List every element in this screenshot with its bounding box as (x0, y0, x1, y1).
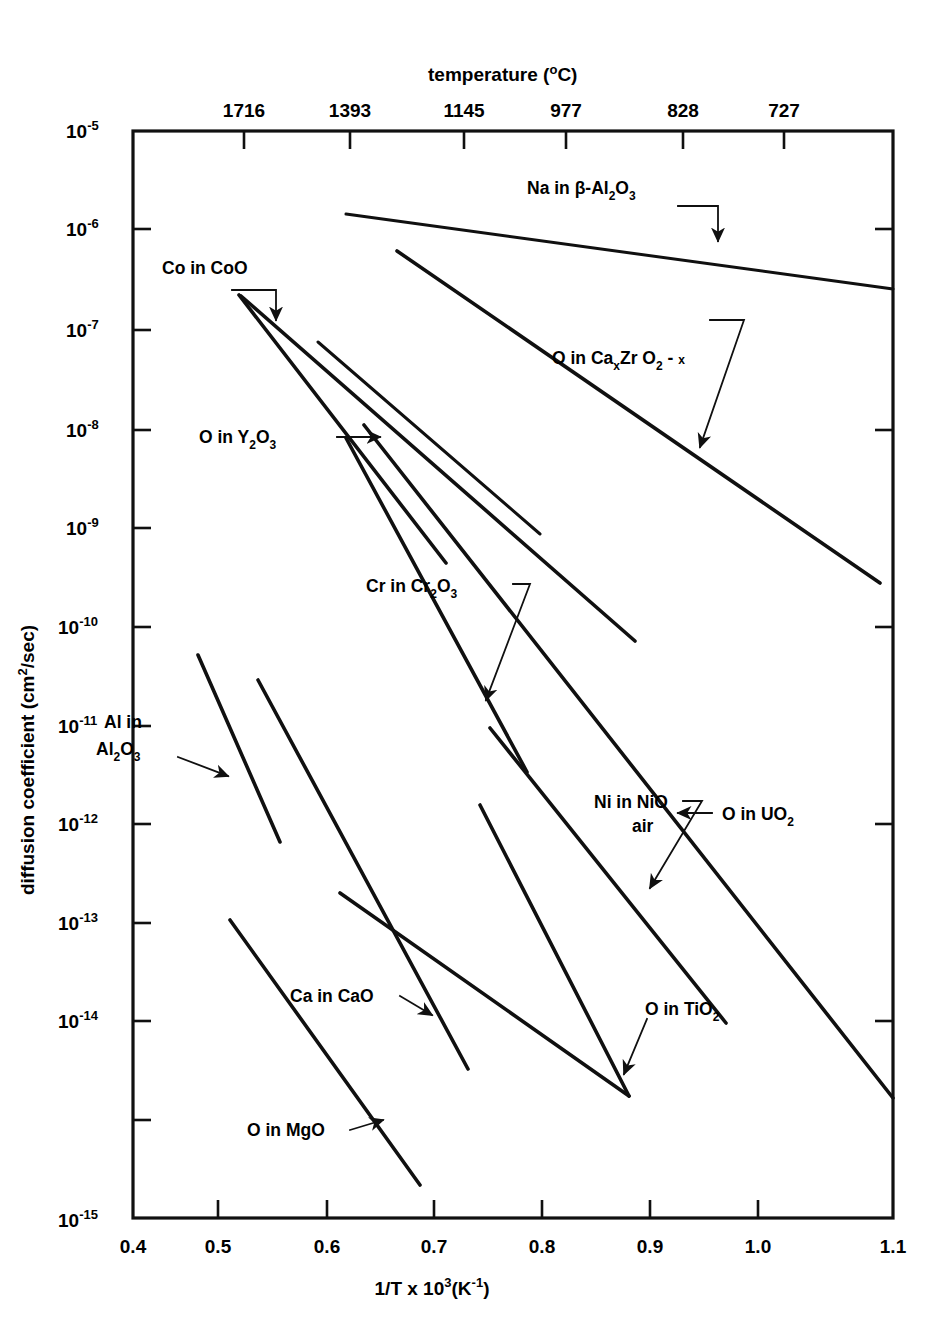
x-tick-label-6: 1.0 (745, 1236, 771, 1257)
svg-text:temperature (oC): temperature (oC) (428, 62, 577, 85)
y-tick-label-7: 10-12 (58, 811, 98, 835)
series-line-o-in-tio2 (480, 805, 629, 1096)
series-label-cr-in-cr2o3: Cr in Cr2O3 (366, 576, 458, 601)
right-axis-ticks (875, 229, 893, 1021)
x-tick-label-4: 0.8 (529, 1236, 555, 1257)
svg-text:diffusion coefficient (cm2/sec: diffusion coefficient (cm2/sec) (15, 625, 38, 895)
x-axis-title-tail: (K (452, 1278, 472, 1299)
series-label-o-in-tio2: O in TiO2 (645, 999, 720, 1024)
bottom-axis-ticks (218, 1200, 758, 1218)
leader-cr-in-cr2o3 (486, 584, 530, 700)
series-label-al-in-al2o3-line1: Al in (104, 712, 142, 732)
top-axis-title: temperature (oC) (428, 62, 577, 85)
series-line-o-in-tio2-upper (340, 893, 629, 1096)
left-axis-ticks (133, 229, 151, 1120)
plot-svg: temperature (oC) 1716 1393 1145 977 828 … (0, 0, 940, 1322)
plot-frame (133, 131, 893, 1218)
series-label-co-in-coo: Co in CoO (162, 258, 248, 278)
y-tick-label-9: 10-14 (58, 1008, 99, 1032)
y-tick-label-2: 10-7 (66, 317, 99, 341)
top-axis-title-tail: C) (557, 64, 577, 85)
top-axis-title-degree: o (549, 62, 557, 77)
y-axis-title-main: diffusion coefficient (cm (17, 675, 38, 895)
top-tick-label-1: 1393 (329, 100, 371, 121)
y-tick-label-5: 10-10 (58, 614, 98, 638)
top-axis-ticks (244, 131, 784, 149)
leader-o-in-caxzro2 (700, 320, 744, 447)
y-axis-title-tail: /sec) (17, 625, 38, 668)
svg-text:1/T x 103(K-1): 1/T x 103(K-1) (375, 1275, 490, 1299)
series-label-ni-in-nio-air-line2: air (632, 816, 654, 836)
series-line-al-in-al2o3 (198, 655, 280, 842)
top-tick-labels: 1716 1393 1145 977 828 727 (223, 100, 800, 121)
series-line-na-in-beta-al2o3 (346, 214, 893, 289)
leader-na-in-beta-al2o3 (678, 206, 718, 241)
y-tick-label-6: 10-11 (58, 713, 97, 737)
top-tick-label-5: 727 (768, 100, 800, 121)
series-line-ni-in-nio-air (490, 728, 726, 1023)
series-label-o-in-mgo: O in MgO (247, 1120, 325, 1140)
series-label-ca-in-cao: Ca in CaO (290, 986, 374, 1006)
y-tick-label-4: 10-9 (66, 515, 99, 539)
x-tick-label-7: 1.1 (880, 1236, 907, 1257)
y-axis-title: diffusion coefficient (cm2/sec) (15, 625, 38, 895)
leader-o-in-tio2 (624, 1019, 647, 1074)
y-tick-label-0: 10-5 (66, 118, 99, 142)
series-label-o-in-uo2: O in UO2 (722, 804, 794, 829)
leader-al-in-al2o3 (178, 757, 228, 776)
x-tick-label-3: 0.7 (421, 1236, 447, 1257)
x-tick-label-0: 0.4 (120, 1236, 147, 1257)
top-tick-label-2: 1145 (443, 100, 485, 121)
y-tick-label-1: 10-6 (66, 216, 99, 240)
x-tick-label-1: 0.5 (205, 1236, 232, 1257)
series-line-o-in-uo2 (364, 425, 893, 1098)
top-tick-label-3: 977 (550, 100, 582, 121)
series-line-co-in-coo (239, 295, 446, 563)
series-line-o-in-mgo (230, 920, 420, 1185)
x-axis-title-end: ) (483, 1278, 489, 1299)
x-tick-labels: 0.4 0.5 0.6 0.7 0.8 0.9 1.0 1.1 (120, 1236, 907, 1257)
series-line-o-in-caxzro2 (397, 251, 880, 583)
top-axis-title-main: temperature ( (428, 64, 550, 85)
series-label-ni-in-nio-air: Ni in NiO (594, 792, 668, 812)
x-tick-label-2: 0.6 (314, 1236, 340, 1257)
x-tick-label-5: 0.9 (637, 1236, 663, 1257)
top-tick-label-4: 828 (667, 100, 699, 121)
y-axis-title-sup: 2 (15, 668, 30, 675)
x-axis-title: 1/T x 103(K-1) (375, 1275, 490, 1299)
x-axis-title-main: 1/T x 10 (375, 1278, 445, 1299)
y-tick-label-3: 10-8 (66, 417, 99, 441)
top-tick-label-0: 1716 (223, 100, 265, 121)
y-tick-labels: 10-5 10-6 10-7 10-8 10-9 10-10 10-11 10-… (58, 118, 99, 1231)
leader-ca-in-cao (400, 996, 432, 1015)
x-axis-title-sup: 3 (444, 1275, 451, 1290)
arrhenius-diffusion-chart: temperature (oC) 1716 1393 1145 977 828 … (0, 0, 940, 1322)
x-axis-title-sup2: -1 (472, 1275, 484, 1290)
y-tick-label-10: 10-15 (58, 1207, 98, 1231)
series-label-o-in-y2o3: O in Y2O3 (199, 427, 277, 452)
y-tick-label-8: 10-13 (58, 910, 98, 934)
series-label-na-in-beta-al2o3: Na in β-Al2O3 (527, 178, 636, 203)
series-line-ca-in-cao (258, 680, 468, 1069)
series-line-cr-in-cr2o3 (346, 438, 527, 772)
